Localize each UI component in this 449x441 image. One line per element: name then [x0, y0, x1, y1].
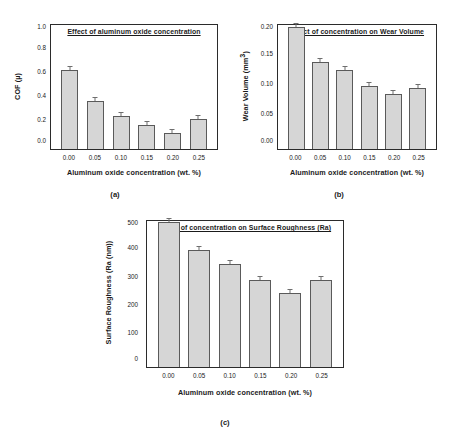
x-tick-label: 0.00 [153, 372, 184, 379]
bar-group [312, 25, 329, 149]
bar [87, 101, 104, 149]
bar [188, 250, 210, 367]
x-tick-label: 0.10 [332, 154, 357, 161]
panel-a-letter: (a) [8, 190, 222, 199]
bar [61, 70, 78, 149]
x-tick-label: 0.05 [82, 154, 108, 161]
panel-b-bars [278, 25, 436, 149]
y-tick-label: 0.8 [37, 45, 46, 51]
panel-c: Surface Roughness (Ra (nm)) 500400300200… [100, 208, 350, 413]
y-tick-label: 0.6 [37, 69, 46, 75]
x-tick-label: 0.05 [184, 372, 215, 379]
y-tick-label: 0.00 [261, 137, 273, 143]
bar [279, 293, 301, 367]
bar [249, 280, 271, 367]
panel-b-x-tick-labels: 0.000.050.100.150.200.25 [277, 154, 437, 161]
bar-group [310, 221, 332, 367]
bar [113, 116, 130, 149]
bar-group [190, 25, 207, 149]
y-tick-label: 0.0 [37, 137, 46, 143]
y-tick-label: 200 [127, 302, 138, 308]
bar-group [249, 221, 271, 367]
x-tick-label: 0.05 [308, 154, 333, 161]
figure-canvas: COF (µ) 1.00.80.60.40.20.0 Effect of alu… [0, 0, 449, 441]
bar-group [138, 25, 155, 149]
bar-group [164, 25, 181, 149]
bar [336, 70, 353, 149]
y-tick-label: 300 [127, 274, 138, 280]
panel-a-x-axis-label: Aluminum oxide concentration (wt. %) [50, 168, 218, 177]
x-tick-label: 0.00 [56, 154, 82, 161]
y-tick-label: 0.2 [37, 117, 46, 123]
bar [190, 119, 207, 149]
panel-b: Wear Volume (mm3) 0.200.150.100.050.00 E… [235, 10, 443, 190]
bar [164, 133, 181, 149]
bar-group [279, 221, 301, 367]
panel-b-y-tick-labels: 0.200.150.100.050.00 [247, 24, 273, 150]
cubic-superscript: 3 [238, 53, 247, 57]
bar-group [113, 25, 130, 149]
bar [158, 222, 180, 367]
bar [361, 86, 378, 149]
bar-group [361, 25, 378, 149]
y-tick-label: 1.0 [37, 24, 46, 30]
bar-group [61, 25, 78, 149]
panel-c-bars [147, 221, 343, 367]
x-tick-label: 0.15 [357, 154, 382, 161]
panel-b-x-axis-label: Aluminum oxide concentration (wt. %) [271, 168, 443, 177]
y-tick-label: 0.15 [261, 51, 273, 57]
x-tick-label: 0.25 [306, 372, 337, 379]
y-tick-label: 0.05 [261, 111, 273, 117]
y-tick-label: 0.10 [261, 81, 273, 87]
panel-b-plot-frame: Effect of concentration on Wear Volume [277, 24, 437, 150]
bar [409, 88, 426, 149]
x-tick-label: 0.25 [186, 154, 212, 161]
bar-group [409, 25, 426, 149]
panel-a: COF (µ) 1.00.80.60.40.20.0 Effect of alu… [8, 10, 222, 190]
bar-group [219, 221, 241, 367]
bar-group [385, 25, 402, 149]
y-tick-label: 100 [127, 330, 138, 336]
bar [219, 264, 241, 367]
x-tick-label: 0.20 [160, 154, 186, 161]
panel-a-x-tick-labels: 0.000.050.100.150.200.25 [50, 154, 218, 161]
bar [288, 27, 305, 149]
panel-a-plot-frame: Effect of aluminum oxide concentration [50, 24, 218, 150]
x-tick-label: 0.15 [245, 372, 276, 379]
bar-group [87, 25, 104, 149]
x-tick-label: 0.20 [382, 154, 407, 161]
y-tick-label: 0.20 [261, 24, 273, 30]
panel-c-plot-frame: Effect of concentration on Surface Rough… [146, 220, 344, 368]
panel-a-y-tick-labels: 1.00.80.60.40.20.0 [20, 24, 46, 150]
y-tick-label: 500 [127, 220, 138, 226]
x-tick-label: 0.15 [134, 154, 160, 161]
x-tick-label: 0.25 [406, 154, 431, 161]
bar-group [336, 25, 353, 149]
panel-c-x-tick-labels: 0.000.050.100.150.200.25 [146, 372, 344, 379]
panel-c-y-tick-labels: 5004003002001000 [112, 220, 138, 368]
x-tick-label: 0.10 [214, 372, 245, 379]
y-tick-label: 0 [134, 355, 138, 361]
bar [138, 125, 155, 149]
bar [312, 62, 329, 149]
panel-a-bars [51, 25, 217, 149]
y-tick-label: 0.4 [37, 93, 46, 99]
bar-group [188, 221, 210, 367]
x-tick-label: 0.20 [276, 372, 307, 379]
panel-b-letter: (b) [235, 190, 443, 199]
bar [385, 94, 402, 149]
panel-c-x-axis-label: Aluminum oxide concentration (wt. %) [140, 388, 350, 397]
panel-c-letter: (c) [100, 418, 350, 427]
bar-group [158, 221, 180, 367]
bar-group [288, 25, 305, 149]
y-tick-label: 400 [127, 245, 138, 251]
x-tick-label: 0.00 [283, 154, 308, 161]
bar [310, 280, 332, 367]
x-tick-label: 0.10 [108, 154, 134, 161]
